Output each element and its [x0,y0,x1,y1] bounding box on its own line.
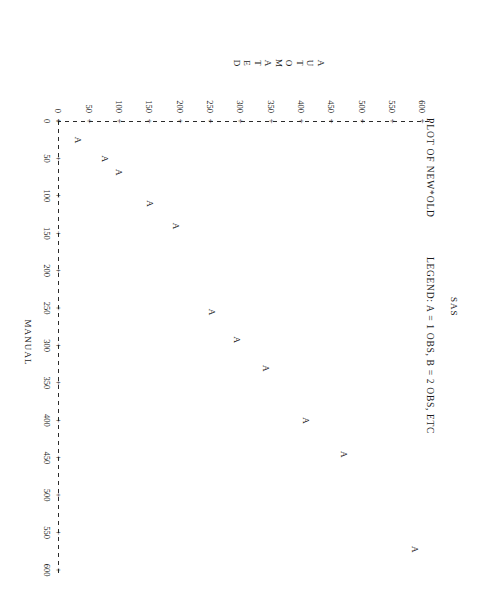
x-tick-label: 350 [42,369,52,397]
sas-plot-page: SAS PLOT OF NEW*OLD LEGEND: A = 1 OBS, B… [0,0,483,607]
data-point-marker: A [145,200,154,207]
y-tick-mark: + [237,118,246,123]
data-point-marker: A [171,223,180,230]
x-tick-label: 250 [42,294,52,322]
y-tick-mark: + [55,118,64,123]
x-tick-label: 550 [42,519,52,547]
y-tick-mark: + [85,118,94,123]
x-tick-label: 100 [42,182,52,210]
x-tick-label: 300 [42,332,52,360]
y-tick-label: 600 [418,85,428,113]
y-axis-title-letter: A [263,60,274,67]
y-tick-mark: + [146,118,155,123]
x-tick-label: 0 [42,107,52,135]
data-point-marker: A [73,137,82,144]
x-tick-label: 600 [42,556,52,584]
y-tick-label: 400 [296,85,306,113]
y-tick-mark: + [419,118,428,123]
printout-canvas: SAS PLOT OF NEW*OLD LEGEND: A = 1 OBS, B… [0,0,483,607]
y-tick-mark: + [267,118,276,123]
y-tick-mark: + [176,118,185,123]
y-axis-title-letter: U [305,60,316,67]
x-tick-mark: + [55,455,64,460]
y-tick-label: 550 [387,85,397,113]
x-tick-mark: + [55,156,64,161]
data-point-marker: A [339,451,348,458]
x-axis-line [58,121,59,576]
data-point-marker: A [114,169,123,176]
data-point-marker: A [232,337,241,344]
plot-area: +0+50+100+150+200+250+300+350+400+450+50… [0,0,483,607]
y-axis-title-letter: E [242,60,253,66]
y-tick-mark: + [206,118,215,123]
y-tick-mark: + [388,118,397,123]
x-tick-label: 200 [42,257,52,285]
y-axis-title-letter: T [294,60,305,66]
x-tick-mark: + [55,343,64,348]
x-tick-mark: + [55,418,64,423]
x-tick-mark: + [55,193,64,198]
y-tick-label: 300 [236,85,246,113]
x-tick-mark: + [55,305,64,310]
data-point-marker: A [207,309,216,316]
data-point-marker: A [410,546,419,553]
x-tick-label: 400 [42,406,52,434]
y-tick-mark: + [297,118,306,123]
y-tick-label: 500 [357,85,367,113]
y-axis-title-letter: A [315,60,326,67]
y-axis-title-letter: T [252,60,263,66]
x-axis-title: MANUAL [23,320,33,366]
y-axis-title-letter: D [231,60,242,67]
y-axis-title-letter: M [273,59,284,67]
data-point-marker: A [301,417,310,424]
x-tick-label: 150 [42,219,52,247]
x-tick-mark: + [55,380,64,385]
y-tick-label: 350 [266,85,276,113]
y-tick-label: 200 [175,85,185,113]
y-tick-mark: + [328,118,337,123]
y-tick-label: 100 [114,85,124,113]
y-tick-mark: + [115,118,124,123]
data-point-marker: A [261,365,270,372]
x-tick-mark: + [55,530,64,535]
x-tick-mark: + [55,567,64,572]
y-tick-label: 0 [54,85,64,113]
x-tick-mark: + [55,268,64,273]
y-tick-label: 50 [84,85,94,113]
printout-sheet: SAS PLOT OF NEW*OLD LEGEND: A = 1 OBS, B… [0,0,483,607]
y-tick-mark: + [358,118,367,123]
x-tick-label: 50 [42,144,52,172]
y-axis-title: AUTOMATED [231,59,326,67]
data-point-marker: A [101,155,110,162]
y-axis-title-letter: O [284,60,295,67]
x-tick-label: 450 [42,444,52,472]
x-tick-mark: + [55,231,64,236]
y-tick-label: 250 [205,85,215,113]
y-tick-label: 450 [327,85,337,113]
x-tick-label: 500 [42,481,52,509]
x-tick-mark: + [55,493,64,498]
y-tick-label: 150 [145,85,155,113]
